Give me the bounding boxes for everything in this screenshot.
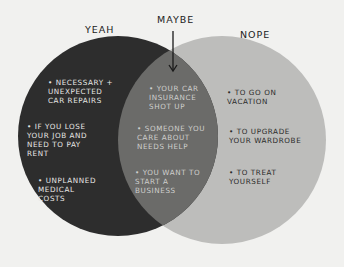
maybe-item-start-business: • YOU WANT TO START A BUSINESS xyxy=(135,168,200,195)
maybe-item-car-insurance: • YOUR CAR INSURANCE SHOT UP xyxy=(149,84,199,111)
nope-item-treat-yourself: • TO TREAT YOURSELF xyxy=(229,168,277,186)
yeah-label: YEAH xyxy=(85,24,114,35)
yeah-item-car-repairs: • NECESSARY + UNEXPECTED CAR REPAIRS xyxy=(48,78,113,105)
yeah-item-medical-costs: • UNPLANNED MEDICAL COSTS xyxy=(38,176,96,203)
arrow-down-icon xyxy=(166,30,180,74)
maybe-label: MAYBE xyxy=(157,14,194,25)
yeah-item-lose-job: • IF YOU LOSE YOUR JOB AND NEED TO PAY R… xyxy=(27,122,87,158)
maybe-item-someone-needs-help: • SOMEONE YOU CARE ABOUT NEEDS HELP xyxy=(137,124,205,151)
nope-label: NOPE xyxy=(240,29,270,40)
nope-item-vacation: • TO GO ON VACATION xyxy=(227,88,276,106)
nope-item-wardrobe: • TO UPGRADE YOUR WARDROBE xyxy=(229,127,301,145)
